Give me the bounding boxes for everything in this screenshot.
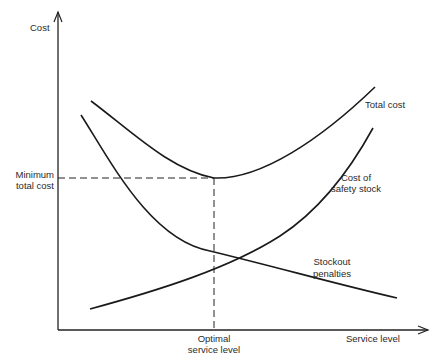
safety-stock-label-1: Cost of [326, 172, 386, 183]
y-axis-label: Cost [30, 22, 50, 33]
x-axis-label: Service level [346, 333, 400, 344]
optimal-level-label-2: service level [180, 344, 248, 355]
total-cost-label: Total cost [365, 99, 405, 110]
stockout-label-1: Stockout [306, 256, 358, 267]
total-cost-curve [91, 87, 375, 178]
optimal-level-label-1: Optimal [180, 333, 248, 344]
min-cost-label-2: total cost [2, 180, 54, 191]
min-cost-label-1: Minimum [2, 169, 54, 180]
stockout-label-2: penalties [306, 268, 358, 279]
safety-stock-label-2: safety stock [326, 183, 386, 194]
